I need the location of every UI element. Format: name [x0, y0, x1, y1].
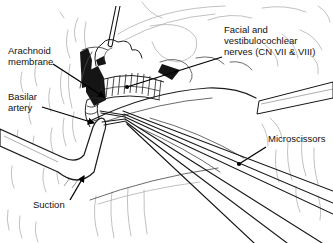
label-line: Suction [33, 199, 65, 210]
label-line: vestibulocochlear [224, 35, 315, 46]
leader-microscissors [239, 147, 266, 164]
figure-canvas: Arachnoid membrane Facial and vestibuloc… [0, 0, 333, 243]
suction-drawing [0, 118, 106, 188]
label-facial-vestibulocochlear-nerves: Facial and vestibulocochlear nerves (CN … [224, 24, 315, 57]
retractor-blade [257, 82, 333, 114]
label-arachnoid-membrane: Arachnoid membrane [8, 45, 53, 67]
leader-facial-nerves-dot [125, 85, 129, 89]
label-microscissors: Microscissors [268, 133, 326, 144]
label-line: Microscissors [268, 133, 326, 144]
label-line: Arachnoid [8, 45, 53, 56]
label-suction: Suction [33, 199, 65, 210]
label-line: Basilar [8, 91, 37, 102]
label-line: Facial and [224, 24, 315, 35]
leader-microscissors-dot [237, 162, 241, 166]
nerve-bundle [98, 73, 164, 100]
microscissors-drawing [100, 111, 333, 243]
label-basilar-artery: Basilar artery [8, 91, 37, 113]
label-line: nerves (CN VII & VIII) [224, 46, 315, 57]
label-line: artery [8, 102, 37, 113]
label-line: membrane [8, 56, 53, 67]
probe-instrument [108, 6, 120, 47]
